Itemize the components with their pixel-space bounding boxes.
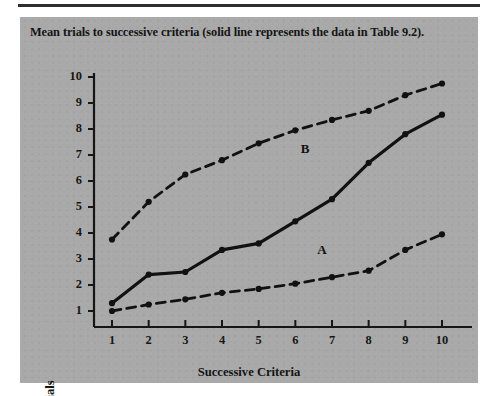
x-tick-label: 7 — [312, 333, 352, 348]
data-point-marker — [292, 218, 298, 224]
y-tick-label: 6 — [20, 173, 82, 188]
data-point-marker — [182, 269, 188, 275]
top-divider-rule — [18, 4, 480, 7]
x-tick-label: 2 — [129, 333, 169, 348]
data-point-marker — [292, 127, 298, 133]
data-point-marker — [402, 92, 408, 98]
series-solid — [109, 112, 445, 307]
data-point-marker — [146, 301, 152, 307]
x-tick-label: 5 — [239, 333, 279, 348]
x-tick-label: 4 — [202, 333, 242, 348]
data-point-marker — [329, 274, 335, 280]
x-tick-label: 10 — [422, 333, 462, 348]
y-tick-label: 9 — [20, 95, 82, 110]
y-tick-label: 2 — [20, 277, 82, 292]
series-line — [112, 115, 442, 304]
figure-page: Mean trials to successive criteria (soli… — [0, 0, 488, 396]
y-tick-label: 7 — [20, 147, 82, 162]
data-point-marker — [146, 272, 152, 278]
plot-area: 1234567891012345678910 BA Successive Cri… — [20, 17, 478, 383]
data-point-marker — [219, 290, 225, 296]
x-tick-label: 8 — [349, 333, 389, 348]
y-tick-label: 8 — [20, 121, 82, 136]
series-annotation-a: A — [317, 242, 326, 258]
data-point-marker — [256, 140, 262, 146]
series-annotation-b: B — [301, 141, 310, 157]
data-series-group — [109, 80, 445, 314]
data-point-marker — [366, 160, 372, 166]
y-tick-label: 5 — [20, 199, 82, 214]
data-point-marker — [219, 247, 225, 253]
y-tick-label: 1 — [20, 303, 82, 318]
data-point-marker — [256, 240, 262, 246]
y-tick-label: 3 — [20, 251, 82, 266]
data-point-marker — [439, 80, 445, 86]
figure-panel: Mean trials to successive criteria (soli… — [20, 17, 478, 383]
data-point-marker — [182, 296, 188, 302]
data-point-marker — [219, 157, 225, 163]
data-point-marker — [109, 300, 115, 306]
data-point-marker — [146, 199, 152, 205]
data-point-marker — [439, 231, 445, 237]
series-b — [109, 80, 445, 242]
x-tick-label: 3 — [165, 333, 205, 348]
line-chart-svg — [20, 17, 478, 383]
x-tick-label: 1 — [92, 333, 132, 348]
data-point-marker — [109, 236, 115, 242]
y-tick-label: 10 — [20, 69, 82, 84]
data-point-marker — [402, 131, 408, 137]
x-tick-label: 6 — [275, 333, 315, 348]
data-point-marker — [402, 247, 408, 253]
x-tick-label: 9 — [385, 333, 425, 348]
data-point-marker — [182, 171, 188, 177]
y-axis-title: Trials — [43, 380, 58, 396]
data-point-marker — [256, 286, 262, 292]
x-axis-title: Successive Criteria — [20, 365, 478, 380]
data-point-marker — [366, 108, 372, 114]
data-point-marker — [366, 268, 372, 274]
data-point-marker — [329, 117, 335, 123]
series-line — [112, 84, 442, 240]
data-point-marker — [109, 308, 115, 314]
data-point-marker — [329, 196, 335, 202]
data-point-marker — [292, 281, 298, 287]
y-tick-label: 4 — [20, 225, 82, 240]
data-point-marker — [439, 112, 445, 118]
axes-group — [88, 73, 472, 328]
